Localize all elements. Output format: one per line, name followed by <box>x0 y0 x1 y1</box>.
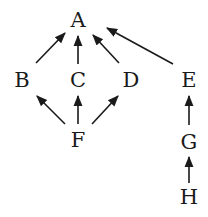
node-g: G <box>181 130 198 154</box>
directed-graph: A B C D E F G H <box>0 0 208 217</box>
edge-d-to-a <box>93 35 119 63</box>
node-f: F <box>71 128 86 152</box>
node-h: H <box>180 185 198 209</box>
node-d: D <box>123 68 140 92</box>
edge-f-to-b <box>37 96 65 124</box>
node-b: B <box>14 68 29 92</box>
edge-e-to-a <box>107 28 173 64</box>
node-a: A <box>69 8 86 32</box>
edge-f-to-d <box>92 96 118 124</box>
edge-b-to-a <box>36 33 65 63</box>
node-c: C <box>70 68 86 92</box>
node-e: E <box>181 68 196 92</box>
edges <box>36 28 189 183</box>
